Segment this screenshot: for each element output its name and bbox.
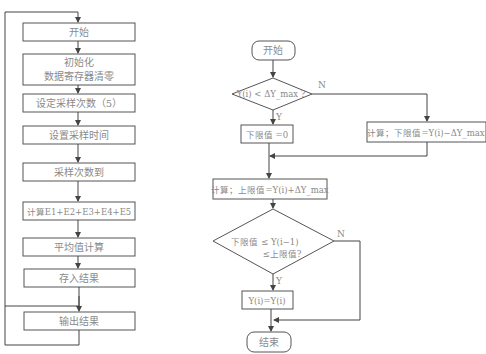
step-init-label-1: 初始化 <box>64 56 94 68</box>
decision-1-no: N <box>318 80 326 90</box>
decision-2-yes: Y <box>275 276 283 286</box>
step-upper-calc-label: 计算；上限值=Y(i)+ΔY_max <box>211 185 328 196</box>
step-count-reached-label: 采样次数到 <box>54 166 104 178</box>
step-set-time-label: 设置采样时间 <box>49 129 109 141</box>
left-flowchart: 开始 初始化 数据寄存器清零 设定采样次数（5） 设置采样时间 采样次数到 计算… <box>5 12 135 345</box>
step-store-label: 存入结果 <box>59 272 99 284</box>
arrow-no-1 <box>312 94 427 121</box>
decision-1-label: Y(i) < ΔY_max ? <box>236 89 306 100</box>
step-assign-label: Y(i)=Y(i) <box>247 296 285 306</box>
decision-2-label-2: ≤上限值? <box>263 249 302 259</box>
decision-2-label-1: 下限值 ≤ Y(i−1) <box>231 237 298 247</box>
arrow-merge-1 <box>270 142 427 156</box>
right-flowchart: 开始 Y(i) < ΔY_max ? N Y 计算；下限值=Y(i)−ΔY_ma… <box>211 41 486 352</box>
step-lower-zero-label: 下限值 =0 <box>246 130 288 140</box>
decision-2-no: N <box>337 229 345 239</box>
step-average-label: 平均值计算 <box>54 241 104 253</box>
step-init-label-2: 数据寄存器清零 <box>44 70 114 82</box>
step-output-label: 输出结果 <box>59 315 99 327</box>
step-start-label: 开始 <box>69 26 89 38</box>
step-sum-label: 计算E1+E2+E3+E4+E5 <box>27 207 132 217</box>
flowchart-canvas: 开始 初始化 数据寄存器清零 设定采样次数（5） 设置采样时间 采样次数到 计算… <box>0 0 486 354</box>
step-set-count-label: 设定采样次数（5） <box>36 97 122 109</box>
terminal-start-label: 开始 <box>263 44 283 56</box>
terminal-end-label: 结束 <box>259 336 279 348</box>
step-lower-calc-label: 计算；下限值=Y(i)−ΔY_max <box>367 128 484 139</box>
decision-1-yes: Y <box>275 112 283 122</box>
